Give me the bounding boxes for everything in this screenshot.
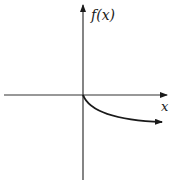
- function-curve: [83, 95, 162, 122]
- y-axis-label: f(x): [90, 7, 115, 23]
- x-axis-label: x: [161, 99, 169, 114]
- function-graph: f(x) x: [0, 0, 172, 185]
